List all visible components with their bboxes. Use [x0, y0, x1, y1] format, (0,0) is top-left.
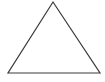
diagram-canvas [0, 0, 105, 82]
triangle-shape [8, 2, 100, 73]
